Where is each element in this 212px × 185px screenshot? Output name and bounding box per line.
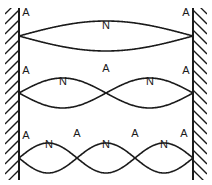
antinode-label-row2-3: A [102,62,110,74]
antinode-label-row2-1: A [22,64,30,76]
antinode-label-row3-7: A [180,127,188,139]
wave-curve-harmonic-2-phase-2 [19,78,193,108]
antinode-label-row1-3: A [182,6,190,18]
right-wall [193,0,207,185]
node-label-row3-4: N [102,138,110,150]
wave-labels-group: ANAANANAANANANA [22,6,190,150]
left-wall [5,0,19,185]
wave-curves-group [19,21,193,173]
antinode-label-row2-5: A [182,64,190,76]
diagram-canvas: ANAANANAANANANA [0,0,212,185]
antinode-label-row3-5: A [131,127,139,139]
left-wall-hatching [5,0,19,185]
node-label-row1-2: N [102,19,110,31]
right-wall-hatching [193,0,207,185]
node-label-row2-2: N [59,75,67,87]
antinode-label-row3-1: A [22,129,30,141]
node-label-row2-4: N [146,75,154,87]
node-label-row3-2: N [45,138,53,150]
antinode-label-row3-3: A [73,127,81,139]
wave-curve-harmonic-1-phase-1 [19,36,193,51]
antinode-label-row1-1: A [22,6,30,18]
node-label-row3-6: N [160,138,168,150]
standing-wave-diagram: ANAANANAANANANA [0,0,212,185]
